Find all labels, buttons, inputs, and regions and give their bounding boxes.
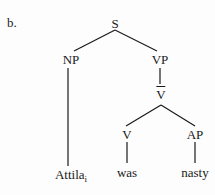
vbar-overline — [156, 86, 165, 87]
node-vp: VP — [152, 53, 169, 66]
leaf-nasty: nasty — [181, 166, 208, 179]
vbar-wrapper: V — [156, 88, 165, 101]
leaf-was: was — [117, 166, 137, 179]
branch-s-vp — [115, 30, 157, 51]
node-ap: AP — [187, 128, 204, 141]
leaf-attila-text: Attila — [55, 167, 85, 182]
branch-vbar-v — [126, 105, 161, 126]
branch-s-np — [74, 30, 115, 51]
vbar-text: V — [156, 87, 165, 102]
node-np: NP — [63, 53, 80, 66]
node-s: S — [111, 17, 118, 30]
leaf-attila: Attilai — [55, 168, 87, 184]
example-label: b. — [7, 16, 17, 29]
branch-vbar-ap — [161, 105, 195, 126]
leaf-attila-index: i — [85, 174, 88, 184]
node-v: V — [122, 128, 131, 141]
node-vbar: V — [156, 88, 165, 101]
syntax-tree-diagram: b. S NP VP V V AP Attilai was nasty — [0, 0, 215, 195]
